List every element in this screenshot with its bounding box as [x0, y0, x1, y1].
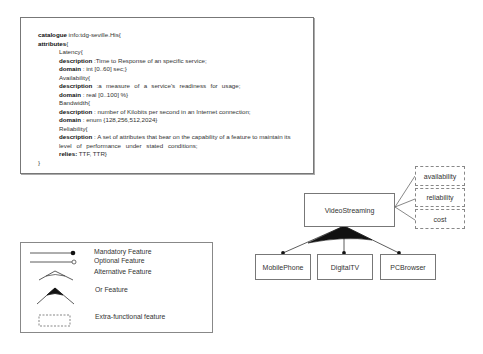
or-relation-arc-icon	[308, 226, 372, 243]
extra-functional-cost: cost	[415, 209, 465, 229]
feature-pc-browser: PCBrowser	[380, 254, 436, 280]
feature-model-connectors	[0, 0, 483, 354]
extra-functional-reliability: reliability	[415, 188, 465, 207]
feature-mobile-phone: MobilePhone	[255, 254, 311, 280]
feature-video-streaming: VideoStreaming	[304, 193, 395, 227]
extra-functional-availability: availability	[415, 166, 465, 186]
feature-digital-tv: DigitalTV	[317, 254, 373, 280]
